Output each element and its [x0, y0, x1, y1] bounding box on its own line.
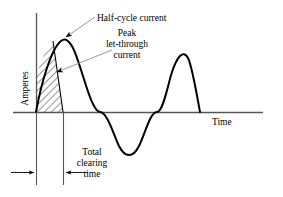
- total-label-line-2: clearing: [64, 158, 120, 169]
- peak-label-line-3: current: [96, 50, 158, 61]
- total-clearing-time-label: Total clearing time: [64, 147, 120, 180]
- x-axis-label: Time: [212, 117, 232, 128]
- peak-let-through-current-label: Peak let-through current: [96, 28, 158, 61]
- half-cycle-current-label: Half-cycle current: [97, 13, 166, 24]
- total-label-line-1: Total: [64, 147, 120, 158]
- let-through-shaded-region: [36, 41, 63, 112]
- y-axis-label: Amperes: [20, 58, 31, 120]
- total-label-line-3: time: [64, 169, 120, 180]
- peak-label-line-1: Peak: [96, 28, 158, 39]
- current-waveform-figure: Half-cycle current Peak let-through curr…: [0, 0, 283, 197]
- peak-label-line-2: let-through: [96, 39, 158, 50]
- half-cycle-leader-line: [66, 17, 95, 37]
